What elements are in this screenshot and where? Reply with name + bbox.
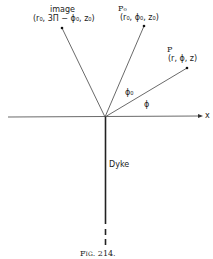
- p-coords: (r, ϕ, z): [168, 55, 197, 63]
- x-axis-label: x: [205, 112, 210, 120]
- figure-caption: Fig. 214.: [80, 250, 116, 258]
- x-axis-arrow-icon: [198, 114, 203, 118]
- image-label: image: [50, 6, 75, 14]
- diagram-lines: [0, 0, 213, 259]
- image-coords: (r₀, 3Π − ϕ₀, z₀): [33, 15, 95, 23]
- phi-angle-label: ϕ: [144, 101, 149, 109]
- p0-point: [143, 25, 146, 28]
- p0-coords: (r₀, ϕ₀, z₀): [120, 14, 159, 22]
- p-point: [186, 67, 189, 70]
- p0-label: P₀: [118, 5, 127, 13]
- phi0-angle-label: ϕ₀: [125, 89, 133, 97]
- diagram-canvas: image (r₀, 3Π − ϕ₀, z₀) P₀ (r₀, ϕ₀, z₀) …: [0, 0, 213, 259]
- x-axis: [8, 116, 200, 117]
- image-ray: [62, 28, 105, 117]
- p-label: P: [167, 46, 172, 54]
- p-ray: [105, 68, 187, 117]
- dyke-label: Dyke: [109, 161, 129, 169]
- image-point: [61, 27, 64, 30]
- p0-ray: [105, 26, 144, 117]
